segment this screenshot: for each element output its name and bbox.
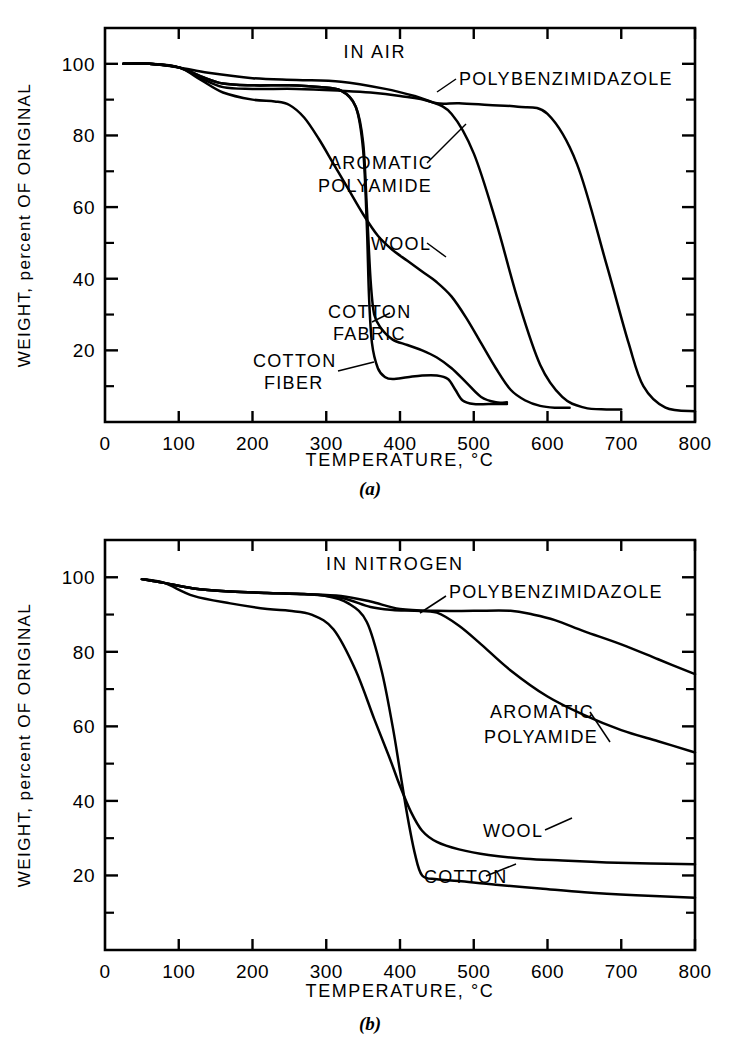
y-tick-label: 20	[73, 865, 95, 886]
chart-b-x-axis-title: TEMPERATURE, °C	[306, 981, 495, 1001]
figure-panel-a: IN AIR POLYBENZIMIDAZOLE AROMATIC POLYAM…	[0, 0, 740, 500]
y-tick-label: 60	[73, 197, 95, 218]
series-label-wool: WOOL	[371, 234, 431, 254]
chart-b-svg: IN NITROGEN POLYBENZIMIDAZOLE AROMATIC P…	[0, 500, 740, 1047]
series-label-cotton-fabric-2: FABRIC	[333, 324, 406, 344]
series-label-cotton: COTTON	[424, 867, 507, 887]
series-label-polybenzimidazole: POLYBENZIMIDAZOLE	[449, 582, 663, 602]
x-tick-label: 700	[605, 961, 638, 982]
chart-a-panel-label: (a)	[359, 478, 381, 500]
series-label-cotton-fiber-2: FIBER	[264, 373, 324, 393]
chart-a-y-tick-labels: 10080604020	[62, 54, 95, 362]
x-tick-label: 800	[678, 961, 711, 982]
chart-a-x-axis-title: TEMPERATURE, °C	[306, 450, 495, 470]
leader-polybenzimidazole	[437, 79, 456, 92]
x-tick-label: 600	[531, 961, 564, 982]
x-tick-label: 200	[236, 433, 269, 454]
x-tick-label: 0	[99, 961, 110, 982]
x-tick-label: 300	[310, 961, 343, 982]
chart-b-text: IN NITROGEN POLYBENZIMIDAZOLE AROMATIC P…	[15, 554, 712, 1035]
y-tick-label: 20	[73, 340, 95, 361]
series-label-polybenzimidazole: POLYBENZIMIDAZOLE	[459, 69, 673, 89]
curve-wool	[142, 579, 695, 864]
y-tick-label: 100	[62, 54, 95, 75]
x-tick-label: 400	[383, 961, 416, 982]
series-label-cotton-fiber-1: COTTON	[253, 351, 336, 371]
x-tick-label: 200	[236, 961, 269, 982]
y-tick-label: 80	[73, 125, 95, 146]
figure-panel-b: IN NITROGEN POLYBENZIMIDAZOLE AROMATIC P…	[0, 500, 740, 1047]
chart-b-curves	[142, 579, 695, 898]
x-tick-label: 0	[99, 433, 110, 454]
y-tick-label: 100	[62, 567, 95, 588]
series-label-aromatic: AROMATIC	[490, 702, 594, 722]
chart-b-panel-label: (b)	[359, 1013, 381, 1035]
chart-b-y-axis-title: WEIGHT, percent OF ORIGINAL	[15, 603, 34, 887]
chart-b-title: IN NITROGEN	[326, 554, 464, 574]
series-label-aromatic: AROMATIC	[329, 153, 433, 173]
leader-cotton-fiber	[338, 362, 374, 371]
chart-a-y-axis-title: WEIGHT, percent OF ORIGINAL	[15, 83, 34, 367]
x-tick-label: 500	[457, 961, 490, 982]
x-tick-label: 600	[531, 433, 564, 454]
series-label-cotton-fabric-1: COTTON	[328, 302, 411, 322]
chart-a-svg: IN AIR POLYBENZIMIDAZOLE AROMATIC POLYAM…	[0, 0, 740, 500]
y-tick-label: 40	[73, 269, 95, 290]
chart-a-title: IN AIR	[344, 42, 407, 62]
x-tick-label: 700	[605, 433, 638, 454]
y-tick-label: 40	[73, 791, 95, 812]
chart-b-y-tick-labels: 10080604020	[62, 567, 95, 886]
leader-wool	[545, 818, 572, 830]
series-label-polyamide: POLYAMIDE	[484, 727, 598, 747]
x-tick-label: 100	[162, 433, 195, 454]
curve-wool	[123, 64, 569, 408]
chart-b-x-tick-labels: 0100200300400500600700800	[99, 961, 711, 982]
x-tick-label: 800	[678, 433, 711, 454]
y-tick-label: 60	[73, 716, 95, 737]
series-label-wool: WOOL	[483, 821, 543, 841]
curve-cotton	[142, 579, 695, 898]
series-label-polyamide: POLYAMIDE	[318, 176, 432, 196]
x-tick-label: 100	[162, 961, 195, 982]
curve-aromatic-polyamide	[142, 579, 695, 752]
y-tick-label: 80	[73, 642, 95, 663]
